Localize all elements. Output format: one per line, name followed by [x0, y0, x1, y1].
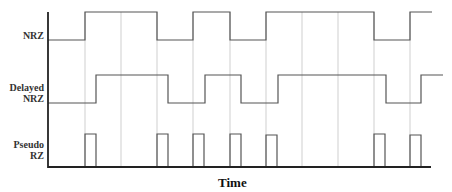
signal-label-delayed-nrz: Delayed NRZ: [0, 82, 44, 104]
pseudo-rz-label-line2: RZ: [0, 150, 44, 161]
delayed-nrz-label-line1: Delayed: [0, 82, 44, 93]
signal-label-nrz: NRZ: [0, 30, 44, 41]
signal-label-pseudo-rz: Pseudo RZ: [0, 139, 44, 161]
pseudo-rz-pulses: [85, 134, 421, 167]
gridlines: [85, 12, 410, 167]
timing-diagram-svg: [0, 0, 452, 192]
nrz-label-text: NRZ: [23, 30, 44, 41]
x-axis-label: Time: [218, 175, 247, 191]
delayed-nrz-label-line2: NRZ: [0, 93, 44, 104]
pseudo-rz-label-line1: Pseudo: [0, 139, 44, 150]
nrz-waveform: [48, 12, 432, 40]
delayed-nrz-waveform: [48, 75, 443, 103]
timing-diagram: NRZ Delayed NRZ Pseudo RZ Time: [0, 0, 452, 192]
